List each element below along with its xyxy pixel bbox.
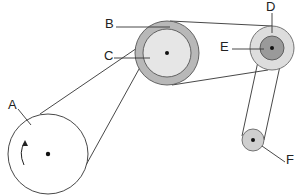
label-D: D	[266, 0, 275, 14]
pulley-F-axle	[251, 138, 255, 142]
belt-A-to-C-cross	[86, 60, 144, 165]
label-B: B	[105, 16, 114, 31]
belt-B-to-D-top	[170, 21, 272, 26]
pulley-F	[242, 129, 264, 151]
label-C: C	[104, 48, 113, 63]
pulley-B-C	[135, 21, 199, 85]
label-E: E	[220, 39, 229, 54]
label-A: A	[8, 97, 17, 112]
pulley-A-axle	[46, 152, 50, 156]
pulley-E-axle	[270, 46, 274, 50]
leader-F	[262, 146, 285, 162]
pulley-diagram: A B C D E F	[0, 0, 301, 196]
pulley-A	[8, 114, 88, 194]
label-F: F	[286, 152, 294, 167]
pulley-C-axle	[165, 51, 169, 55]
